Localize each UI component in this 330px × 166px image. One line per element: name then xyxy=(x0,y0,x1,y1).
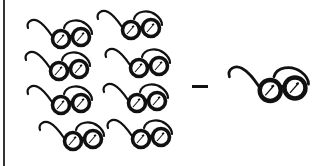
minus-sign-icon xyxy=(192,85,208,88)
left-border-line xyxy=(3,0,5,166)
glasses-icon xyxy=(24,16,96,50)
glasses-icon xyxy=(100,80,172,114)
glasses-icon xyxy=(24,82,96,116)
glasses-icon xyxy=(36,118,108,152)
glasses-icon xyxy=(22,48,94,82)
glasses-icon xyxy=(104,116,176,150)
glasses-icon xyxy=(224,62,314,104)
glasses-icon xyxy=(102,45,174,79)
glasses-icon xyxy=(94,7,166,41)
